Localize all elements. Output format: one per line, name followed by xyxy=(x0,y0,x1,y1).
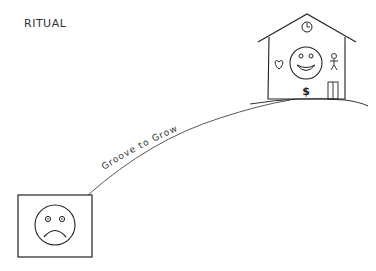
sketch-canvas: Groove to Grow xyxy=(0,0,376,271)
clock-icon xyxy=(302,22,312,32)
happy-face-icon xyxy=(290,47,322,79)
house: $ xyxy=(258,14,356,99)
path-label: Groove to Grow xyxy=(100,123,180,172)
stick-figure-icon xyxy=(330,54,338,71)
dollar-icon: $ xyxy=(302,85,310,98)
groove-path xyxy=(88,100,290,195)
sad-face-frame xyxy=(18,195,92,257)
house-roof xyxy=(258,14,356,42)
heart-icon xyxy=(275,61,283,69)
sad-face xyxy=(35,205,75,245)
door-icon xyxy=(328,82,338,99)
